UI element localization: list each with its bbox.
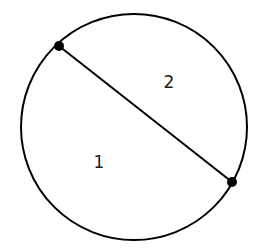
chord-endpoint-top xyxy=(54,41,64,51)
chord xyxy=(59,46,232,182)
chord-endpoint-bottom xyxy=(227,177,237,187)
region-label-1: 1 xyxy=(94,152,105,172)
region-label-2: 2 xyxy=(164,72,175,92)
circle-chord-diagram: 1 2 xyxy=(0,0,264,248)
